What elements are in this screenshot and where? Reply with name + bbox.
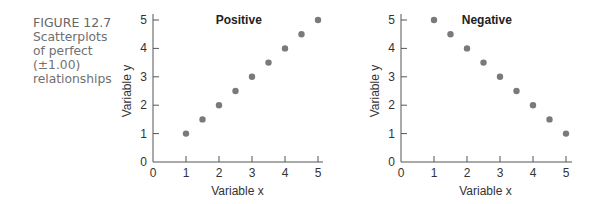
y-tick-label: 0 — [388, 155, 395, 169]
data-point — [546, 116, 552, 122]
x-tick-label: 0 — [398, 166, 405, 180]
data-point — [265, 59, 271, 65]
y-tick-label: 3 — [140, 70, 147, 84]
x-tick-label: 0 — [150, 166, 157, 180]
y-tick-label: 4 — [388, 41, 395, 55]
x-tick-label: 3 — [249, 166, 256, 180]
chart-title: Negative — [462, 13, 512, 27]
data-point — [183, 130, 189, 136]
y-tick-label: 0 — [140, 155, 147, 169]
x-tick-label: 2 — [216, 166, 223, 180]
x-tick-label: 5 — [315, 166, 322, 180]
y-tick-label: 1 — [388, 127, 395, 141]
y-tick-label: 3 — [388, 70, 395, 84]
data-point — [232, 88, 238, 94]
x-axis-label: Variable x — [211, 184, 263, 198]
data-point — [282, 45, 288, 51]
data-point — [431, 17, 437, 23]
x-tick-label: 5 — [563, 166, 570, 180]
data-point — [530, 102, 536, 108]
data-point — [298, 31, 304, 37]
x-tick-label: 3 — [497, 166, 504, 180]
data-point — [480, 59, 486, 65]
x-tick-label: 4 — [530, 166, 537, 180]
data-point — [249, 74, 255, 80]
x-axis-label: Variable x — [459, 184, 511, 198]
data-point — [216, 102, 222, 108]
chart-title: Positive — [216, 13, 262, 27]
data-point — [199, 116, 205, 122]
data-point — [513, 88, 519, 94]
data-point — [464, 45, 470, 51]
data-point — [447, 31, 453, 37]
x-tick-label: 1 — [183, 166, 190, 180]
y-tick-label: 2 — [388, 98, 395, 112]
x-tick-label: 4 — [282, 166, 289, 180]
data-point — [315, 17, 321, 23]
y-tick-label: 5 — [388, 13, 395, 27]
x-tick-label: 2 — [464, 166, 471, 180]
y-tick-label: 1 — [140, 127, 147, 141]
y-axis-label: Variable y — [368, 65, 382, 117]
y-tick-label: 5 — [140, 13, 147, 27]
scatterplots: 012345012345PositiveVariable xVariable y… — [0, 0, 602, 204]
y-axis-label: Variable y — [120, 65, 134, 117]
data-point — [563, 130, 569, 136]
x-tick-label: 1 — [431, 166, 438, 180]
data-point — [497, 74, 503, 80]
y-tick-label: 2 — [140, 98, 147, 112]
y-tick-label: 4 — [140, 41, 147, 55]
